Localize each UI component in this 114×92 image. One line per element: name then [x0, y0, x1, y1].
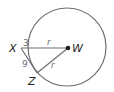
circle-diagram: X W Z 3 9 r r [0, 0, 114, 92]
label-w: W [72, 42, 84, 55]
label-z: Z [27, 75, 36, 88]
label-x: X [8, 42, 17, 55]
label-radius-top: r [47, 37, 52, 47]
label-segment-9: 9 [22, 59, 28, 69]
center-point-w [66, 46, 71, 51]
label-radius-bottom: r [51, 60, 56, 70]
label-segment-3: 3 [23, 38, 29, 48]
